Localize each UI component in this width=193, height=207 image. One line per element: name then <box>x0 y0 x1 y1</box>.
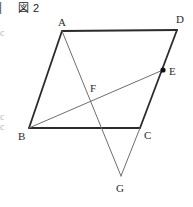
point-markers-layer <box>160 67 165 72</box>
point-label-f: F <box>90 83 96 94</box>
segment-CG <box>121 128 140 176</box>
point-label-g: G <box>116 183 124 194</box>
point-marker-e <box>160 67 165 72</box>
side-AB <box>29 31 62 128</box>
geometry-diagram <box>0 0 193 207</box>
point-label-b: B <box>18 131 25 142</box>
point-label-d: D <box>176 14 184 25</box>
figure-container: 図 2 ▏ccc ADBCEFG <box>0 0 193 207</box>
side-AD <box>62 30 177 31</box>
segment-AG <box>62 31 121 176</box>
segments-layer <box>29 30 177 176</box>
point-label-a: A <box>58 17 66 28</box>
side-DC <box>140 30 177 128</box>
point-label-e: E <box>169 66 176 77</box>
point-label-c: C <box>144 130 151 141</box>
